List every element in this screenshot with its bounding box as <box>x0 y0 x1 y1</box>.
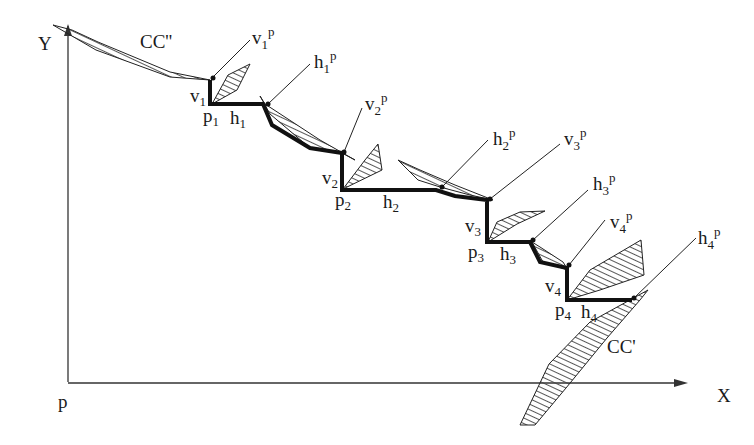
label-p1: p1 <box>203 105 219 129</box>
staircase-path-diagram: Y X p CC'' CC' <box>0 0 754 445</box>
label-h1: h1 <box>230 107 246 131</box>
label-h3: h3 <box>500 243 516 267</box>
callout-v3p: v3p <box>564 125 587 153</box>
label-p3: p3 <box>468 241 484 265</box>
callout-h2p: h2p <box>493 125 516 153</box>
label-v4: v4 <box>545 275 562 299</box>
label-v3: v3 <box>465 215 481 239</box>
x-axis-label: X <box>717 385 731 406</box>
label-p2: p2 <box>335 189 351 213</box>
callout-v2p: v2p <box>365 90 388 118</box>
label-v2: v2 <box>322 167 338 191</box>
callout-v4p: v4p <box>610 208 633 236</box>
label-p4: p4 <box>555 299 572 323</box>
y-axis-label: Y <box>38 33 52 54</box>
curve-cc-double-prime-label: CC'' <box>140 31 172 52</box>
segment-labels: v1 p1 h1 v2 p2 h2 v3 p3 h3 v4 p4 h4 <box>190 85 598 325</box>
hatched-regions <box>212 64 644 300</box>
origin-label: p <box>58 391 68 412</box>
curve-cc-prime-label: CC' <box>607 336 636 357</box>
callout-h1p: h1p <box>314 48 337 76</box>
callout-v1p: v1p <box>252 24 275 52</box>
curve-cc-double-prime: CC'' <box>53 25 210 80</box>
callout-h4p: h4p <box>698 224 721 252</box>
callout-h3p: h3p <box>593 170 616 198</box>
x-axis-arrow-icon <box>674 379 688 387</box>
label-h2: h2 <box>383 191 399 215</box>
label-h4: h4 <box>581 301 598 325</box>
